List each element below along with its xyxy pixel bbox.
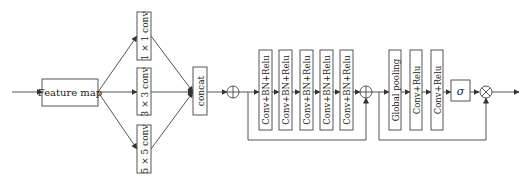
residual-block-5: Conv+BN+Relu xyxy=(340,50,353,130)
branch-5x5-conv: 5 × 5 conv xyxy=(137,124,151,174)
conv-relu-block-1: Conv+Relu xyxy=(410,50,422,130)
conv-relu-label: Conv+Relu xyxy=(412,65,422,114)
residual-block-label: Conv+BN+Relu xyxy=(302,55,312,125)
branch-3x3-label: 3 × 3 conv xyxy=(140,67,150,117)
concat-block: concat xyxy=(193,67,207,115)
feature-map-block: Feature map xyxy=(38,79,102,106)
branch-3x3-conv: 3 × 3 conv xyxy=(137,67,151,117)
edge-1x1-concat xyxy=(151,36,193,92)
residual-block-4: Conv+BN+Relu xyxy=(320,50,333,130)
edge-featuremap-5x5 xyxy=(98,92,137,149)
residual-block-3: Conv+BN+Relu xyxy=(300,50,313,130)
sigmoid-block: σ xyxy=(451,80,470,101)
feature-map-label: Feature map xyxy=(38,87,102,98)
global-pooling-label: Global pooling xyxy=(391,58,401,121)
conv-relu-label: Conv+Relu xyxy=(433,65,443,114)
conv-relu-block-2: Conv+Relu xyxy=(431,50,443,130)
architecture-diagram: Feature map 1 × 1 conv 3 × 3 conv 5 × 5 … xyxy=(0,0,531,181)
edge-5x5-concat xyxy=(151,92,193,149)
add-op-1 xyxy=(227,86,239,98)
global-pooling-block: Global pooling xyxy=(389,50,401,130)
residual-block-label: Conv+BN+Relu xyxy=(322,55,332,125)
residual-block-label: Conv+BN+Relu xyxy=(281,55,291,125)
concat-label: concat xyxy=(196,75,206,106)
branch-5x5-label: 5 × 5 conv xyxy=(140,124,150,174)
residual-block-label: Conv+BN+Relu xyxy=(342,55,352,125)
multiply-op xyxy=(480,86,492,98)
residual-block-label: Conv+BN+Relu xyxy=(261,55,271,125)
branch-1x1-label: 1 × 1 conv xyxy=(140,11,150,61)
residual-block-2: Conv+BN+Relu xyxy=(279,50,292,130)
sigmoid-label: σ xyxy=(457,85,465,98)
branch-1x1-conv: 1 × 1 conv xyxy=(137,11,151,61)
residual-block-1: Conv+BN+Relu xyxy=(259,50,272,130)
edge-featuremap-1x1 xyxy=(98,36,137,92)
add-op-2 xyxy=(360,86,372,98)
